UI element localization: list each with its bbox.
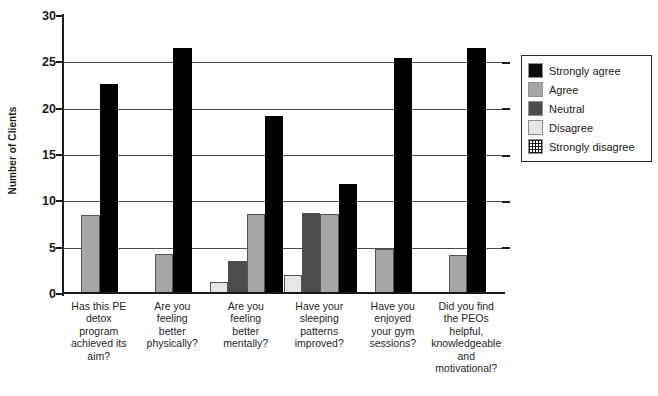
legend-item[interactable]: Disagree xyxy=(528,118,646,137)
legend-item[interactable]: Strongly disagree xyxy=(528,137,646,156)
bar xyxy=(302,213,320,294)
bar xyxy=(155,254,173,294)
y-axis-title-text: Number of Clients xyxy=(8,106,19,194)
legend-item-label: Strongly agree xyxy=(549,65,621,77)
bar xyxy=(375,249,393,294)
x-axis-category-label-line: helpful, xyxy=(421,325,513,337)
bar xyxy=(339,184,357,294)
legend-swatch-icon xyxy=(528,101,543,116)
x-axis-category-labels: Has this PEdetoxprogramachieved itsaim?A… xyxy=(62,300,503,396)
legend-swatch-icon xyxy=(528,82,543,97)
bar xyxy=(320,214,338,294)
legend-item-label: Agree xyxy=(549,84,578,96)
y-axis-tick-label: 20 xyxy=(42,102,56,115)
plot-area xyxy=(62,16,503,294)
bar xyxy=(173,48,191,294)
x-axis-category-label-line: aim? xyxy=(53,350,145,362)
bar xyxy=(247,214,265,294)
x-axis-category-label-line: knowledgeable xyxy=(421,337,513,349)
bar xyxy=(467,48,485,294)
legend-item-label: Strongly disagree xyxy=(549,141,635,153)
legend-swatch-icon xyxy=(528,120,543,135)
y-axis-tick-label: 5 xyxy=(49,241,56,254)
bar xyxy=(100,84,118,294)
bar xyxy=(265,116,283,294)
y-axis-title: Number of Clients xyxy=(2,0,24,300)
bar xyxy=(81,215,99,294)
legend-item[interactable]: Agree xyxy=(528,80,646,99)
y-axis-tick-labels: 051015202530 xyxy=(24,0,58,310)
y-axis-tick-label: 0 xyxy=(49,288,56,301)
x-axis-category-label-line: Did you find xyxy=(421,300,513,312)
bar xyxy=(449,255,467,294)
legend-item-label: Disagree xyxy=(549,122,593,134)
y-axis-line xyxy=(62,14,64,296)
bars-layer xyxy=(62,16,503,294)
chart-legend: Strongly agreeAgreeNeutralDisagreeStrong… xyxy=(521,55,652,162)
y-axis-tick-label: 25 xyxy=(42,56,56,69)
y-axis-tick-label: 30 xyxy=(42,10,56,23)
legend-swatch-icon xyxy=(528,63,543,78)
y-axis-tick-mark-right xyxy=(502,108,510,110)
y-axis-tick-mark-right xyxy=(502,155,510,157)
legend-item[interactable]: Strongly agree xyxy=(528,61,646,80)
x-axis-category-label: Did you findthe PEOshelpful,knowledgeabl… xyxy=(421,300,513,374)
y-axis-tick-mark-right xyxy=(502,247,510,249)
x-axis-category-label-line: motivational? xyxy=(421,362,513,374)
bar xyxy=(394,58,412,294)
legend-swatch-icon xyxy=(528,139,543,154)
x-axis-line xyxy=(62,292,505,294)
legend-item-label: Neutral xyxy=(549,103,584,115)
x-axis-category-label-line: the PEOs xyxy=(421,312,513,324)
legend-item[interactable]: Neutral xyxy=(528,99,646,118)
bar xyxy=(228,261,246,294)
y-axis-tick-mark-right xyxy=(502,201,510,203)
x-axis-category-label-line: and xyxy=(421,350,513,362)
y-axis-tick-mark-right xyxy=(502,62,510,64)
y-axis-tick-label: 15 xyxy=(42,149,56,162)
y-axis-tick-label: 10 xyxy=(42,195,56,208)
